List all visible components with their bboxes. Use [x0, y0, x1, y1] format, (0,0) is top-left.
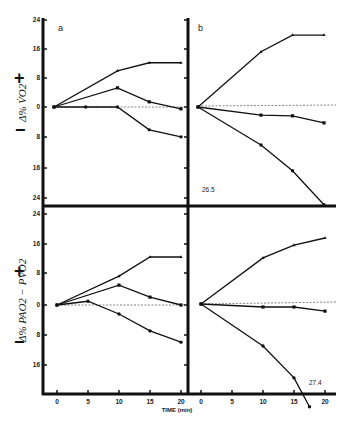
square-marker — [116, 86, 119, 89]
x-tick-label: 0 — [199, 398, 203, 405]
panel-label-a: a — [58, 23, 63, 33]
series-triangle-line — [201, 238, 325, 304]
bottom-y-axis-label: Δ% PAO2 − PVO2 — [16, 258, 28, 343]
square-marker — [292, 305, 295, 308]
y-tick-label: 0 — [36, 301, 40, 308]
panel-label-b: b — [198, 23, 203, 33]
x-tick-label: 15 — [290, 398, 298, 405]
figure: a b + − Δ% V̇O2 + − Δ% PAO2 − PVO2 26.5 … — [0, 0, 350, 427]
annotation-26-5: 26.5 — [202, 186, 215, 193]
y-tick-label: 24 — [33, 16, 41, 23]
circle-marker — [52, 105, 55, 108]
y-tick-label: 16 — [33, 240, 41, 247]
circle-marker — [291, 169, 294, 172]
x-tick-label: 0 — [55, 398, 59, 405]
square-marker — [179, 107, 182, 110]
y-tick-label: 8 — [36, 331, 40, 338]
circle-marker — [84, 105, 87, 108]
circle-marker — [196, 105, 199, 108]
y-tick-label: 8 — [36, 269, 40, 276]
circle-marker — [259, 143, 262, 146]
circle-marker — [148, 128, 151, 131]
square-marker — [322, 121, 325, 124]
y-tick-label: 0 — [36, 103, 40, 110]
top-y-axis-label: Δ% V̇O2 — [16, 83, 28, 123]
y-tick-label: 8 — [36, 133, 40, 140]
series-circle-line — [198, 107, 324, 205]
y-tick-label: 16 — [33, 45, 41, 52]
circle-marker — [116, 105, 119, 108]
series-square-line — [57, 285, 181, 305]
square-marker — [117, 284, 120, 287]
series-triangle-line — [198, 35, 324, 107]
square-marker — [148, 100, 151, 103]
x-tick-label: 10 — [259, 398, 267, 405]
circle-marker — [148, 329, 151, 332]
circle-marker — [292, 376, 295, 379]
y-tick-label: 24 — [33, 210, 41, 217]
square-marker — [323, 310, 326, 313]
y-tick-labels: 24168081624241680816 — [33, 16, 41, 368]
circle-marker — [86, 300, 89, 303]
x-tick-label: 10 — [115, 398, 123, 405]
square-marker — [259, 114, 262, 117]
square-marker — [261, 305, 264, 308]
square-marker — [148, 296, 151, 299]
axes-frame — [42, 18, 336, 395]
x-tick-label: 5 — [86, 398, 90, 405]
x-tick-label: 20 — [321, 398, 329, 405]
circle-marker — [179, 135, 182, 138]
circle-marker — [117, 312, 120, 315]
x-tick-label: 15 — [146, 398, 154, 405]
circle-marker — [199, 302, 202, 305]
circle-marker — [322, 203, 325, 206]
x-tick-label: 20 — [177, 398, 185, 405]
y-tick-label: 8 — [36, 74, 40, 81]
minus-sign-top: − — [15, 120, 26, 140]
circle-marker — [261, 344, 264, 347]
square-marker — [179, 303, 182, 306]
circle-marker — [179, 340, 182, 343]
annotation-27-4: 27.4 — [309, 379, 322, 386]
x-tick-label: 5 — [230, 398, 234, 405]
x-axis-title: TIME (min) — [162, 407, 193, 413]
circle-marker — [55, 303, 58, 306]
y-tick-label: 24 — [33, 194, 41, 201]
series-circle-line — [57, 301, 181, 342]
circle-marker — [308, 405, 311, 408]
series-circle-line — [201, 304, 310, 407]
square-marker — [291, 114, 294, 117]
series-circle-line — [54, 107, 181, 137]
y-tick-label: 16 — [33, 361, 41, 368]
y-tick-label: 16 — [33, 164, 41, 171]
x-tick-labels: 0510152005101520 — [55, 398, 329, 405]
series-triangle-line — [57, 257, 181, 305]
